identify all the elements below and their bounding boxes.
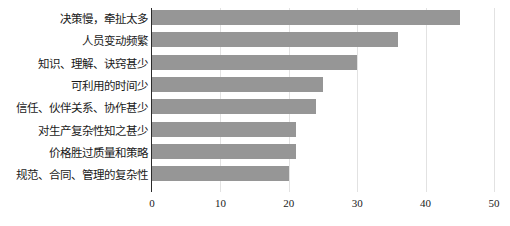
category-axis-label: 人员变动频繁	[0, 34, 148, 49]
category-axis-label: 对生产复杂性知之甚少	[0, 124, 148, 139]
value-axis-tick-label: 0	[149, 196, 155, 210]
value-axis-tick-label: 20	[283, 196, 294, 210]
bar	[152, 122, 296, 137]
gridline	[494, 8, 495, 192]
category-axis: 决策慢，牵扯太多人员变动频繁知识、理解、诀窍甚少可利用的时间少信任、伙伴关系、协…	[0, 10, 148, 186]
bar	[152, 55, 357, 70]
category-axis-label: 价格胜过质量和策略	[0, 146, 148, 161]
category-axis-label: 可利用的时间少	[0, 79, 148, 94]
bar	[152, 32, 398, 47]
value-axis-tick-label: 40	[420, 196, 431, 210]
value-axis-tick-label: 10	[215, 196, 226, 210]
value-axis-tick-label: 50	[489, 196, 500, 210]
value-axis-tick-labels: 01020304050	[0, 196, 510, 214]
category-axis-label: 决策慢，牵扯太多	[0, 12, 148, 27]
category-axis-label: 信任、伙伴关系、协作甚少	[0, 101, 148, 116]
value-axis-tick-label: 30	[352, 196, 363, 210]
category-axis-label: 知识、理解、诀窍甚少	[0, 57, 148, 72]
category-axis-label: 规范、合同、管理的复杂性	[0, 168, 148, 183]
bar	[152, 10, 460, 25]
value-axis-line	[151, 8, 152, 192]
plot-area	[152, 8, 494, 192]
bar	[152, 166, 289, 181]
gridline	[426, 8, 427, 192]
bar-chart: 决策慢，牵扯太多人员变动频繁知识、理解、诀窍甚少可利用的时间少信任、伙伴关系、协…	[0, 0, 510, 226]
bar	[152, 99, 316, 114]
bar	[152, 77, 323, 92]
bar	[152, 144, 296, 159]
